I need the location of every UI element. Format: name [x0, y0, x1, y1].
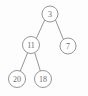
tree-node-7: 7 [60, 38, 76, 54]
tree-node-20: 20 [9, 71, 26, 88]
node-label-11: 11 [27, 41, 35, 50]
node-label-7: 7 [66, 42, 70, 51]
binary-tree-figure: 31172018 [0, 0, 88, 96]
tree-node-11: 11 [23, 37, 40, 54]
node-label-20: 20 [13, 75, 21, 84]
tree-edge-n3-n7 [56, 20, 64, 40]
tree-canvas: 31172018 [0, 0, 88, 96]
tree-nodes: 31172018 [9, 6, 77, 88]
tree-edge-n3-n11 [36, 20, 45, 39]
tree-node-18: 18 [35, 71, 52, 88]
node-label-3: 3 [48, 10, 52, 19]
node-label-18: 18 [39, 75, 47, 84]
tree-node-3: 3 [42, 6, 58, 22]
tree-edge-n11-n18 [35, 53, 41, 71]
tree-edge-n11-n20 [20, 53, 27, 71]
